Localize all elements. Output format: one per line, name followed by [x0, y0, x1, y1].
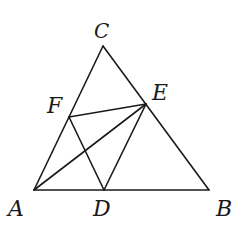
label-f: F — [46, 93, 63, 118]
segment-fd — [69, 117, 104, 190]
label-d: D — [92, 196, 111, 221]
label-b: B — [215, 196, 232, 221]
segment-de — [104, 104, 146, 190]
label-e: E — [151, 80, 168, 105]
label-a: A — [6, 196, 24, 221]
geometry-diagram: C E F A D B — [0, 0, 250, 237]
label-c: C — [94, 19, 109, 43]
segment-ca — [34, 46, 103, 190]
segment-bc — [103, 46, 209, 190]
segment-ef — [69, 104, 146, 117]
